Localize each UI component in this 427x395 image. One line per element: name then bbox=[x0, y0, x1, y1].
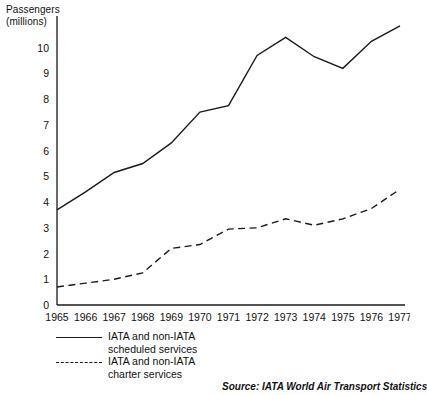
y-tick-0: 0 bbox=[43, 299, 49, 311]
plot-area: 012345678910 196519661967196819691970197… bbox=[0, 0, 410, 330]
legend-label-charter: IATA and non-IATA charter services bbox=[108, 355, 195, 380]
series-line-charter bbox=[57, 189, 400, 287]
x-tick-1972: 1972 bbox=[245, 311, 269, 323]
legend-item-scheduled: IATA and non-IATA scheduled services bbox=[56, 332, 306, 354]
chart-legend: IATA and non-IATA scheduled services IAT… bbox=[56, 332, 306, 379]
x-tick-1974: 1974 bbox=[303, 311, 327, 323]
legend-line-sample-dashed bbox=[56, 362, 102, 365]
x-tick-1969: 1969 bbox=[160, 311, 184, 323]
data-series-group bbox=[57, 26, 400, 287]
x-tick-1977: 1977 bbox=[388, 311, 410, 323]
x-tick-1976: 1976 bbox=[360, 311, 384, 323]
y-tick-7: 7 bbox=[43, 119, 49, 131]
x-tick-1965: 1965 bbox=[45, 311, 69, 323]
legend-item-charter: IATA and non-IATA charter services bbox=[56, 357, 306, 379]
y-tick-8: 8 bbox=[43, 93, 49, 105]
y-tick-9: 9 bbox=[43, 67, 49, 79]
x-tick-1973: 1973 bbox=[274, 311, 298, 323]
y-tick-6: 6 bbox=[43, 145, 49, 157]
x-tick-1966: 1966 bbox=[74, 311, 98, 323]
source-note: Source: IATA World Air Transport Statist… bbox=[222, 381, 427, 392]
x-tick-1971: 1971 bbox=[217, 311, 241, 323]
y-tick-2: 2 bbox=[43, 248, 49, 260]
legend-label-scheduled: IATA and non-IATA scheduled services bbox=[108, 330, 197, 355]
y-tick-5: 5 bbox=[43, 170, 49, 182]
series-line-scheduled bbox=[57, 26, 400, 210]
x-tick-1970: 1970 bbox=[188, 311, 212, 323]
y-tick-3: 3 bbox=[43, 222, 49, 234]
y-tick-4: 4 bbox=[43, 196, 49, 208]
x-tick-1967: 1967 bbox=[102, 311, 126, 323]
x-axis-tick-labels: 1965196619671968196919701971197219731974… bbox=[45, 311, 410, 323]
legend-line-sample-solid bbox=[56, 337, 102, 340]
x-tick-1968: 1968 bbox=[131, 311, 155, 323]
y-axis-tick-labels: 012345678910 bbox=[37, 42, 49, 311]
y-tick-10: 10 bbox=[37, 42, 49, 54]
y-tick-1: 1 bbox=[43, 273, 49, 285]
x-tick-1975: 1975 bbox=[331, 311, 355, 323]
